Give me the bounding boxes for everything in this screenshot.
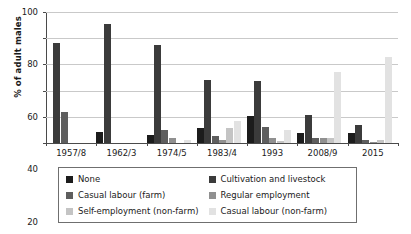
x-tick-label: 1993 (261, 148, 283, 158)
y-tick-label: 20 (27, 217, 38, 227)
x-tick-label: 1957/8 (56, 148, 86, 158)
bar (334, 72, 341, 143)
bar (284, 130, 291, 143)
y-tick-label: 80 (27, 59, 38, 69)
bar (348, 133, 355, 143)
legend-row: None Cultivation and livestock (66, 171, 351, 187)
legend-entry-label: Self-employment (non-farm) (78, 206, 199, 216)
legend-entry-cultivation-and-livestock[interactable]: Cultivation and livestock (209, 174, 352, 184)
bar (377, 140, 384, 143)
bar (305, 115, 312, 143)
bar (169, 138, 176, 143)
y-tick-label: 100 (22, 7, 38, 17)
bar (320, 138, 327, 143)
x-tick-label: 1962/3 (106, 148, 136, 158)
bar (204, 80, 211, 143)
x-tick-label: 1974/5 (157, 148, 187, 158)
legend-swatch-icon (209, 208, 216, 215)
gridline (46, 143, 398, 144)
bar (219, 140, 226, 143)
bar-group (96, 12, 146, 143)
x-tick-mark (96, 143, 97, 146)
bar-chart-figure: % of adult males 020406080100 1957/81962… (0, 0, 411, 234)
bar-group (197, 12, 247, 143)
legend-entry-label: Casual labour (non-farm) (221, 206, 327, 216)
bar (385, 57, 392, 143)
x-tick-mark (197, 143, 198, 146)
bar (147, 135, 154, 144)
bar (247, 116, 254, 144)
bar (254, 81, 261, 143)
x-tick-mark (247, 143, 248, 146)
legend-entry-label: None (78, 174, 100, 184)
bar-group (247, 12, 297, 143)
bar (262, 127, 269, 143)
legend-entry-regular-employment[interactable]: Regular employment (209, 190, 352, 200)
bar (212, 136, 219, 143)
plot-area: 020406080100 1957/81962/31974/51983/4199… (46, 12, 398, 143)
x-tick-mark (398, 143, 399, 146)
legend-row: Self-employment (non-farm) Casual labour… (66, 203, 351, 219)
legend-entry-label: Cultivation and livestock (221, 174, 326, 184)
bar (370, 142, 377, 143)
x-tick-label: 2008/9 (308, 148, 338, 158)
bar (312, 138, 319, 143)
bar (96, 132, 103, 143)
bar (362, 140, 369, 143)
bar (269, 138, 276, 143)
bar (226, 128, 233, 143)
legend-entry-label: Regular employment (221, 190, 310, 200)
legend-swatch-icon (66, 176, 73, 183)
chart-legend: None Cultivation and livestock Casual la… (58, 167, 357, 223)
legend-swatch-icon (66, 208, 73, 215)
bar (277, 141, 284, 143)
bar (161, 130, 168, 143)
legend-swatch-icon (209, 192, 216, 199)
bar-group (46, 12, 96, 143)
legend-entry-none[interactable]: None (66, 174, 209, 184)
x-tick-mark (147, 143, 148, 146)
bar-group (297, 12, 347, 143)
legend-entry-casual-labour-non-farm[interactable]: Casual labour (non-farm) (209, 206, 352, 216)
y-tick-label: 40 (27, 164, 38, 174)
bar (184, 140, 191, 143)
legend-row: Casual labour (farm) Regular employment (66, 187, 351, 203)
bar (104, 24, 111, 143)
x-tick-label: 1983/4 (207, 148, 237, 158)
legend-swatch-icon (66, 192, 73, 199)
bar (61, 112, 68, 143)
legend-swatch-icon (209, 176, 216, 183)
y-axis-title: % of adult males (13, 2, 23, 112)
bar (327, 138, 334, 143)
x-tick-mark (297, 143, 298, 146)
bar (234, 121, 241, 143)
y-tick-label: 60 (27, 112, 38, 122)
bar (197, 128, 204, 143)
x-tick-mark (348, 143, 349, 146)
bar (297, 133, 304, 143)
bar (355, 125, 362, 143)
legend-entry-casual-labour-farm[interactable]: Casual labour (farm) (66, 190, 209, 200)
legend-entry-self-employment-non-farm[interactable]: Self-employment (non-farm) (66, 206, 209, 216)
bar (154, 45, 161, 143)
x-tick-mark (46, 143, 47, 146)
bar-group (348, 12, 398, 143)
legend-entry-label: Casual labour (farm) (78, 190, 165, 200)
bar (53, 43, 60, 143)
bar-group (147, 12, 197, 143)
x-tick-label: 2015 (362, 148, 384, 158)
